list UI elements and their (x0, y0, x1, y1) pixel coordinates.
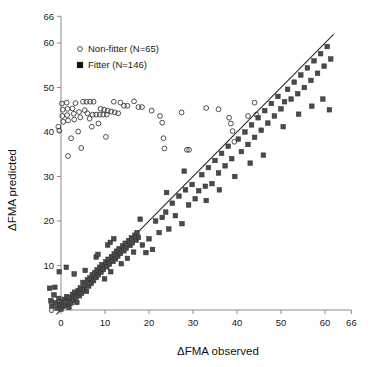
data-point-fitter (164, 190, 169, 195)
data-point-fitter (328, 57, 333, 62)
data-point-fitter (193, 196, 198, 201)
data-point-fitter (163, 210, 168, 215)
data-point-fitter (312, 59, 317, 64)
data-point-fitter (57, 269, 62, 274)
plot-canvas: 010203040506066 010203040506066 Non-fitt… (0, 0, 376, 367)
data-point-fitter (119, 261, 124, 266)
data-point-fitter (125, 256, 130, 261)
x-tick-label: 40 (232, 317, 243, 328)
x-tick-label: 60 (320, 317, 331, 328)
data-point-fitter (190, 182, 195, 187)
data-point-fitter (170, 201, 175, 206)
data-point-fitter (239, 149, 244, 154)
data-point-fitter (204, 198, 209, 203)
data-point-fitter (315, 71, 320, 76)
data-point-fitter (160, 215, 165, 220)
data-point-fitter (150, 247, 155, 252)
data-point-fitter (182, 169, 187, 174)
data-point-fitter (177, 194, 182, 199)
data-point-fitter (292, 80, 297, 85)
data-point-fitter (52, 293, 57, 298)
data-point-fitter (47, 286, 52, 291)
x-tick-label: 0 (58, 317, 63, 328)
data-point-fitter (226, 144, 231, 149)
data-point-fitter (75, 300, 80, 305)
data-point-fitter (157, 230, 162, 235)
y-tick-label: 40 (43, 126, 54, 137)
data-point-fitter (180, 221, 185, 226)
data-point-fitter (186, 203, 191, 208)
scatter-plot-figure: 010203040506066 010203040506066 Non-fitt… (0, 0, 376, 367)
data-point-fitter (210, 181, 215, 186)
data-point-fitter (206, 165, 211, 170)
data-point-fitter (53, 285, 58, 290)
data-point-fitter (321, 97, 326, 102)
data-point-fitter (272, 114, 277, 119)
data-point-fitter (183, 188, 188, 193)
data-point-fitter (296, 112, 301, 117)
data-point-fitter (276, 94, 281, 99)
y-tick-label: 20 (43, 215, 54, 226)
data-point-fitter (318, 51, 323, 56)
data-point-fitter (83, 268, 88, 273)
data-point-fitter (327, 107, 332, 112)
data-point-fitter (325, 44, 330, 49)
data-point-fitter (140, 243, 145, 248)
data-point-fitter (153, 219, 158, 224)
y-tick-label: 50 (43, 82, 54, 93)
data-point-fitter (112, 237, 117, 242)
data-point-fitter (136, 235, 141, 240)
data-point-fitter (144, 250, 149, 255)
data-point-fitter (269, 101, 274, 106)
data-point-fitter (67, 305, 72, 310)
data-point-fitter (213, 158, 218, 163)
data-point-fitter (131, 250, 136, 255)
x-axis-title: ΔFMA observed (177, 345, 259, 357)
data-point-fitter (310, 104, 315, 109)
x-tick-label: 30 (188, 317, 199, 328)
data-point-fitter (203, 184, 208, 189)
data-point-fitter (266, 121, 271, 126)
y-tick-label: 66 (43, 11, 54, 22)
data-point-fitter (147, 237, 152, 242)
data-point-fitter (302, 85, 307, 90)
data-point-fitter (281, 124, 286, 129)
legend-item-label: Fitter (N=146) (88, 59, 147, 70)
data-point-fitter (72, 272, 77, 277)
data-point-fitter (108, 269, 113, 274)
data-point-fitter (261, 153, 266, 158)
data-point-fitter (246, 142, 251, 147)
x-tick-label: 50 (276, 317, 287, 328)
data-point-fitter (248, 161, 253, 166)
data-point-fitter (279, 107, 284, 112)
data-point-fitter (216, 171, 221, 176)
x-tick-label: 66 (346, 317, 357, 328)
data-point-fitter (259, 128, 264, 133)
data-point-fitter (285, 87, 290, 92)
data-point-fitter (289, 97, 294, 102)
data-point-fitter (196, 188, 201, 193)
legend-item-label: Non-fitter (N=65) (88, 43, 159, 54)
y-tick-label: 30 (43, 171, 54, 182)
data-point-fitter (295, 91, 300, 96)
x-tick-label: 10 (100, 317, 111, 328)
legend-marker-filled-square-icon (77, 62, 82, 67)
data-point-fitter (249, 123, 254, 128)
data-point-fitter (219, 151, 224, 156)
data-point-fitter (138, 217, 143, 222)
y-axis-title: ΔFMA predicted (6, 149, 18, 231)
data-point-fitter (229, 156, 234, 161)
data-point-fitter (322, 64, 327, 69)
data-point-fitter (200, 172, 205, 177)
data-point-fitter (135, 230, 140, 235)
data-point-fitter (282, 99, 287, 104)
data-point-fitter (167, 227, 172, 232)
data-point-fitter (49, 298, 54, 303)
data-point-fitter (102, 277, 107, 282)
data-point-fitter (305, 66, 310, 71)
data-point-fitter (233, 174, 238, 179)
data-point-fitter (217, 188, 222, 193)
data-point-fitter (252, 135, 257, 140)
data-point-fitter (173, 213, 178, 218)
data-point-fitter (64, 265, 69, 270)
